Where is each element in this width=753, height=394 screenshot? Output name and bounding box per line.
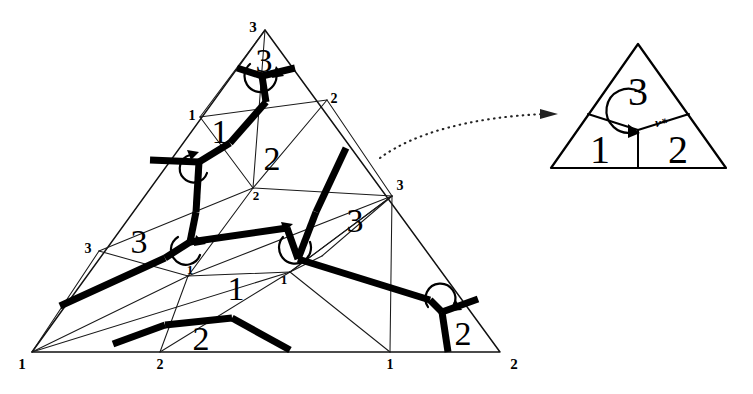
bold-path-network [60,68,478,352]
edge-label-right-lower: 3 [397,178,404,193]
detail-region-label-top: 3 [628,69,648,114]
region-label-bottom: 2 [193,320,210,357]
edge-label-left-lower: 3 [85,241,92,256]
edge-label-bottom-mid-left: 2 [157,357,164,372]
node-label-center-two: 2 [253,188,260,203]
figure-canvas: 1 2 3 2 1 1 3 2 3 3 1 2 2 3 1 1 1 3 2 2 [0,0,753,394]
region-label-center-lower: 1 [228,270,245,307]
region-label-right: 3 [347,202,364,239]
corner-label-bottom-left: 1 [18,356,26,372]
corner-label-apex: 3 [249,19,257,35]
region-label-left: 3 [131,223,148,260]
edge-label-right-upper: 2 [331,91,338,106]
corner-label-bottom-right: 2 [510,356,518,372]
edge-label-bottom-mid-right: 1 [387,357,394,372]
connector-arrowhead-icon [540,109,558,119]
region-label-apex: 3 [256,42,273,79]
region-label-bottom-right: 2 [455,315,472,352]
triangulation-grid [32,30,392,352]
detail-region-label-left: 1 [590,127,610,172]
node-label-center-lower-right-one: 1 [281,272,288,287]
region-label-center-upper: 2 [264,140,281,177]
detail-inset-triangle: 1 2 3 v* [551,44,726,172]
node-label-center-one: 1 [187,262,194,277]
region-label-upper-left: 1 [212,113,229,150]
zoom-connector [380,109,558,158]
edge-label-left-upper: 1 [189,108,196,123]
figure-root: 1 2 3 2 1 1 3 2 3 3 1 2 2 3 1 1 1 3 2 2 [0,0,753,394]
detail-region-label-right: 2 [668,127,688,172]
detail-vertex-annotation: v* [655,115,668,130]
